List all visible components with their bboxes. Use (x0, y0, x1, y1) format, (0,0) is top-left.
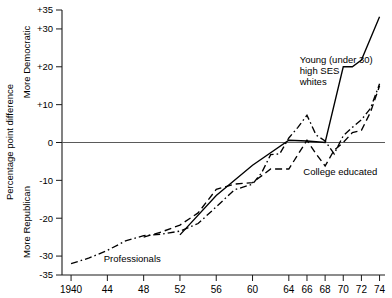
x-tick-label: 60 (247, 284, 259, 295)
y-tick-label: -30 (39, 250, 53, 261)
y-axis-ticks (56, 10, 62, 275)
annotation-line: College educated (303, 166, 377, 177)
x-tick-label: 1940 (60, 284, 83, 295)
x-tick-label: 70 (338, 284, 350, 295)
x-tick-label: 56 (211, 284, 223, 295)
y-tick-label: -10 (39, 175, 53, 186)
x-tick-label: 66 (301, 284, 313, 295)
annotation-0: Professionals (104, 253, 161, 264)
x-axis-ticks (71, 275, 379, 281)
y-tick-label: +35 (37, 4, 53, 15)
y-axis-direction-label-lower: More Republican (21, 186, 32, 258)
annotation-2: Young (under 30)high SESwhites (299, 54, 373, 87)
y-axis-tick-labels: +35+30+20+100-10-20-30-35 (37, 4, 53, 280)
x-tick-label: 44 (102, 284, 114, 295)
x-tick-label: 52 (174, 284, 186, 295)
line-chart: +35+30+20+100-10-20-30-35 19404448525660… (0, 0, 392, 298)
y-tick-label: +20 (37, 61, 53, 72)
y-tick-label: -20 (39, 213, 53, 224)
x-tick-label: 68 (320, 284, 332, 295)
annotation-1: College educated (303, 166, 377, 177)
annotation-line: high SES (300, 65, 340, 76)
annotation-line: whites (299, 76, 327, 87)
series-line-2 (180, 17, 380, 235)
annotation-line: Professionals (104, 253, 161, 264)
chart-container: +35+30+20+100-10-20-30-35 19404448525660… (0, 0, 392, 298)
annotation-line: Young (under 30) (300, 54, 373, 65)
y-tick-label: 0 (48, 137, 53, 148)
x-tick-label: 74 (374, 284, 386, 295)
x-tick-label: 48 (138, 284, 150, 295)
x-tick-label: 64 (283, 284, 295, 295)
series-line-1 (144, 86, 380, 237)
y-tick-label: +10 (37, 99, 53, 110)
y-tick-label: -35 (39, 269, 53, 280)
y-axis-direction-label-upper: More Democratic (21, 26, 32, 99)
x-axis-tick-labels: 19404448525660646668707274 (60, 284, 386, 295)
y-tick-label: +30 (37, 23, 53, 34)
x-tick-label: 72 (356, 284, 368, 295)
series-annotations: ProfessionalsCollege educatedYoung (unde… (104, 54, 378, 264)
y-axis-title: Percentage point difference (4, 84, 15, 200)
